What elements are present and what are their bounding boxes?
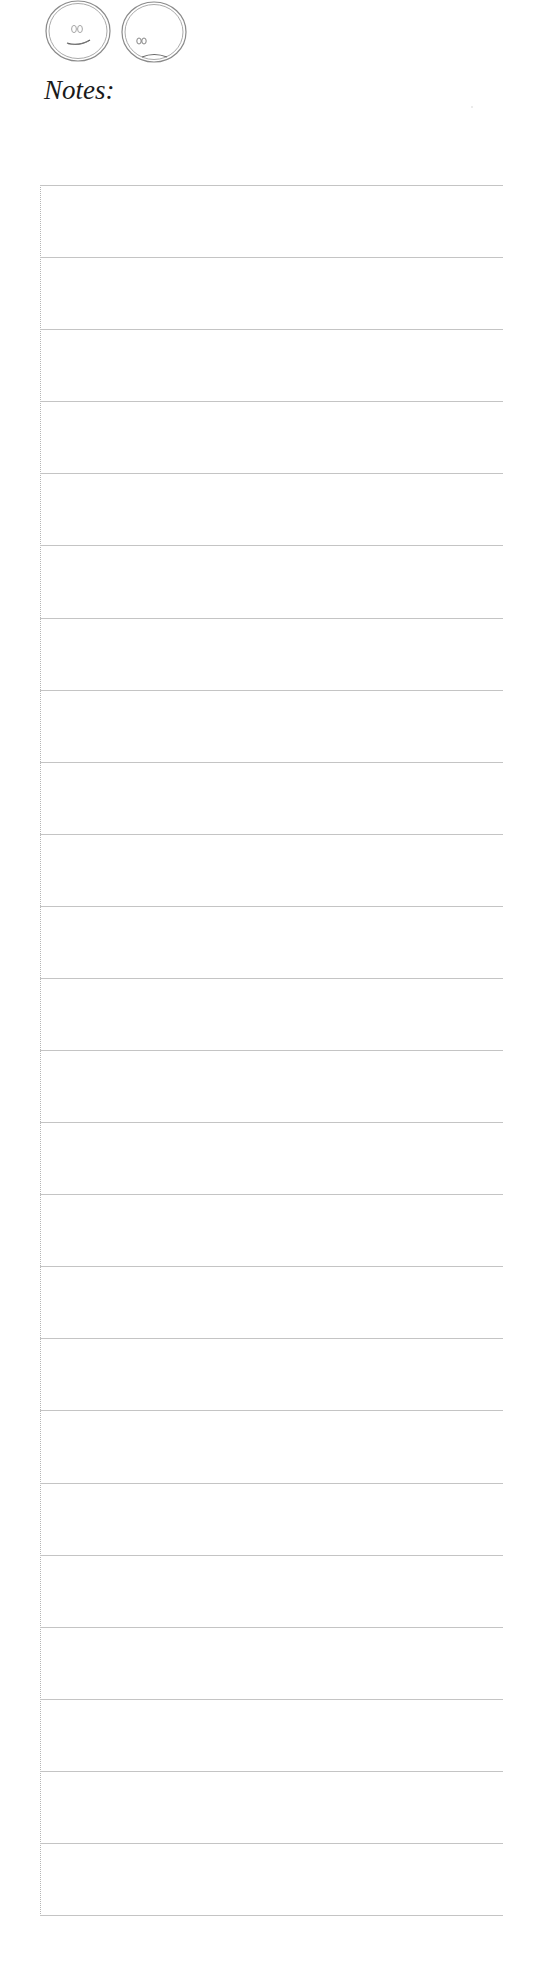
note-line[interactable]: [40, 1050, 503, 1051]
notes-ruled-area[interactable]: [40, 185, 503, 1916]
note-line[interactable]: [40, 762, 503, 763]
note-line[interactable]: [40, 545, 503, 546]
note-line[interactable]: [40, 1699, 503, 1700]
note-line[interactable]: [40, 906, 503, 907]
note-line[interactable]: [40, 978, 503, 979]
note-line[interactable]: [40, 1483, 503, 1484]
note-line[interactable]: [40, 401, 503, 402]
note-line[interactable]: [40, 1843, 503, 1844]
note-line[interactable]: [40, 1627, 503, 1628]
note-line[interactable]: [40, 1771, 503, 1772]
note-line[interactable]: [40, 1122, 503, 1123]
note-line[interactable]: [40, 1555, 503, 1556]
mood-icons: [0, 0, 200, 66]
happy-face-icon: [44, 0, 112, 64]
notes-heading: Notes:: [44, 74, 115, 106]
scan-speck: [471, 106, 473, 108]
note-line[interactable]: [40, 1194, 503, 1195]
note-line[interactable]: [40, 690, 503, 691]
note-line[interactable]: [40, 1915, 503, 1916]
note-line[interactable]: [40, 1338, 503, 1339]
note-line[interactable]: [40, 834, 503, 835]
note-line[interactable]: [40, 185, 503, 186]
note-line[interactable]: [40, 329, 503, 330]
note-line[interactable]: [40, 1266, 503, 1267]
note-line[interactable]: [40, 1410, 503, 1411]
note-line[interactable]: [40, 473, 503, 474]
sad-face-icon: [120, 1, 188, 65]
note-line[interactable]: [40, 257, 503, 258]
note-line[interactable]: [40, 618, 503, 619]
